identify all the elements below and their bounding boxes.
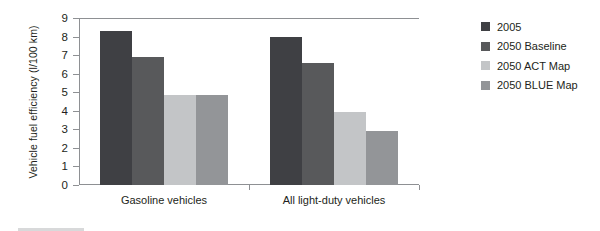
- plot-area: 9876543210 Gasoline vehiclesAll light-du…: [79, 18, 419, 185]
- y-axis-tick-label: 8: [48, 29, 68, 45]
- chart-legend: 20052050 Baseline2050 ACT Map2050 BLUE M…: [481, 17, 578, 95]
- legend-label: 2005: [497, 21, 521, 33]
- legend-item[interactable]: 2050 BLUE Map: [481, 76, 578, 96]
- legend-label: 2050 BLUE Map: [497, 79, 578, 91]
- y-axis-tick-label: 5: [48, 84, 68, 100]
- y-axis-tick-label: 9: [48, 10, 68, 26]
- legend-item[interactable]: 2050 Baseline: [481, 37, 578, 57]
- bar-chart-figure: Vehicle fuel efficiency (l/100 km) 98765…: [0, 0, 600, 231]
- y-axis-tick-label: 2: [48, 140, 68, 156]
- bar: [164, 95, 196, 185]
- x-axis-group-divider: [419, 185, 420, 190]
- y-axis-tick-label: 6: [48, 66, 68, 82]
- bar: [196, 95, 228, 185]
- legend-label: 2050 Baseline: [497, 40, 567, 52]
- legend-label: 2050 ACT Map: [497, 60, 570, 72]
- legend-item[interactable]: 2005: [481, 17, 578, 37]
- y-axis-tick: 0: [73, 185, 79, 186]
- y-axis-tick-label: 3: [48, 121, 68, 137]
- legend-swatch-icon: [481, 61, 490, 70]
- y-axis-tick-label: 0: [48, 177, 68, 193]
- bar: [100, 31, 132, 185]
- y-axis-title: Vehicle fuel efficiency (l/100 km): [27, 7, 39, 197]
- legend-swatch-icon: [481, 81, 490, 90]
- y-axis-tick-label: 4: [48, 103, 68, 119]
- x-axis-group-divider: [249, 185, 250, 190]
- bar: [132, 57, 164, 185]
- bar-series-container: [79, 18, 419, 185]
- page-corner-mark: [18, 228, 84, 231]
- bar: [366, 131, 398, 185]
- x-axis-group-label: Gasoline vehicles: [121, 194, 207, 206]
- legend-swatch-icon: [481, 22, 490, 31]
- legend-item[interactable]: 2050 ACT Map: [481, 56, 578, 76]
- legend-swatch-icon: [481, 42, 490, 51]
- x-axis-group-label: All light-duty vehicles: [283, 194, 386, 206]
- bar: [334, 112, 366, 185]
- y-axis-tick-label: 1: [48, 158, 68, 174]
- y-axis-tick-label: 7: [48, 47, 68, 63]
- bar: [302, 63, 334, 185]
- bar: [270, 37, 302, 185]
